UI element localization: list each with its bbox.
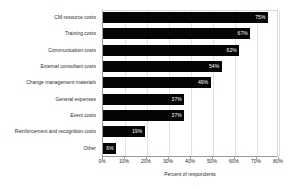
corner-artifact — [7, 2, 13, 7]
category-label: Change management materials — [26, 75, 96, 91]
x-tick-label: 80% — [273, 158, 283, 164]
bar-row: 49% — [102, 75, 278, 91]
bar-value-label: 54% — [103, 61, 222, 72]
bar-row: 6% — [102, 141, 278, 157]
category-label: CM resource costs — [54, 10, 96, 26]
bar-row: 37% — [102, 108, 278, 124]
category-label: Event costs — [70, 108, 96, 124]
category-axis-labels: CM resource costsTraining costsCommunica… — [0, 10, 99, 157]
bar-row: 67% — [102, 26, 278, 42]
bar-chart: CM resource costsTraining costsCommunica… — [0, 0, 304, 190]
bar-value-label: 37% — [103, 110, 184, 121]
bar-series: 75%67%62%54%49%37%37%19%6% — [102, 10, 278, 157]
x-tick-label: 60% — [229, 158, 239, 164]
bar-row: 62% — [102, 43, 278, 59]
x-axis-title: Percent of respondents — [102, 171, 278, 177]
x-tick-label: 50% — [207, 158, 217, 164]
x-tick-label: 70% — [251, 158, 261, 164]
category-label: External consultant costs — [40, 59, 96, 75]
bar-row: 37% — [102, 92, 278, 108]
x-axis-ticks: 0%10%20%30%40%50%60%70%80% — [102, 158, 278, 168]
gridline — [279, 11, 280, 156]
category-label: General expenses — [55, 92, 96, 108]
x-tick-label: 20% — [141, 158, 151, 164]
bar-value-label: 37% — [103, 94, 184, 105]
bar-value-label: 75% — [103, 12, 268, 23]
x-tick-label: 40% — [185, 158, 195, 164]
x-tick-label: 10% — [119, 158, 129, 164]
bar-value-label: 62% — [103, 45, 239, 56]
bar-row: 54% — [102, 59, 278, 75]
bar-row: 19% — [102, 124, 278, 140]
category-label: Training costs — [65, 26, 96, 42]
bar-row: 75% — [102, 10, 278, 26]
x-tick-label: 0% — [98, 158, 105, 164]
bar-value-label: 67% — [103, 28, 250, 39]
x-tick-label: 30% — [163, 158, 173, 164]
bar-value-label: 19% — [103, 126, 145, 137]
category-label: Reinforcement and recognition costs — [15, 124, 96, 140]
bar-value-label: 49% — [103, 77, 211, 88]
category-label: Communication costs — [48, 43, 96, 59]
bar-value-label: 6% — [103, 143, 116, 154]
category-label: Other — [83, 141, 96, 157]
